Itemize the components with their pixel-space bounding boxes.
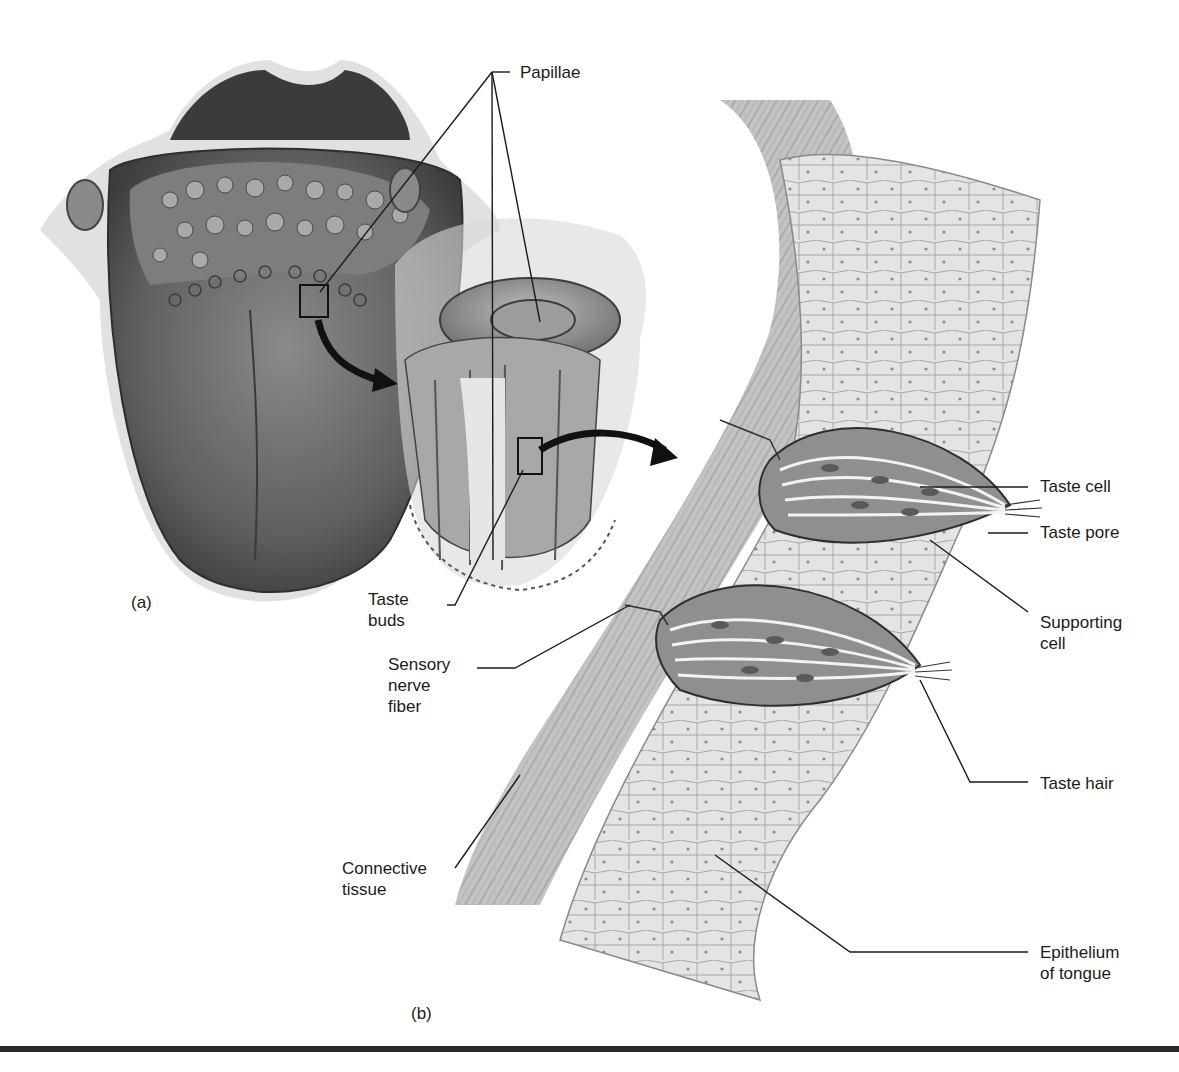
label-epithelium-of-tongue: Epithelium of tongue bbox=[1040, 942, 1119, 984]
label-sensory-nerve-fiber: Sensory nerve fiber bbox=[388, 654, 450, 717]
papilla-cross-section bbox=[395, 218, 678, 590]
label-taste-buds: Taste buds bbox=[368, 589, 409, 631]
illustration bbox=[0, 0, 1179, 1072]
label-connective-tissue: Connective tissue bbox=[342, 858, 427, 900]
label-taste-pore: Taste pore bbox=[1040, 522, 1119, 543]
panel-label-a: (a) bbox=[131, 593, 152, 613]
taste-anatomy-figure: Papillae Taste buds Sensory nerve fiber … bbox=[0, 0, 1179, 1072]
label-taste-hair: Taste hair bbox=[1040, 773, 1114, 794]
label-taste-cell: Taste cell bbox=[1040, 476, 1111, 497]
label-papillae: Papillae bbox=[520, 62, 581, 83]
panel-label-b: (b) bbox=[411, 1004, 432, 1024]
label-supporting-cell: Supporting cell bbox=[1040, 612, 1122, 654]
bottom-rule bbox=[0, 1046, 1179, 1052]
